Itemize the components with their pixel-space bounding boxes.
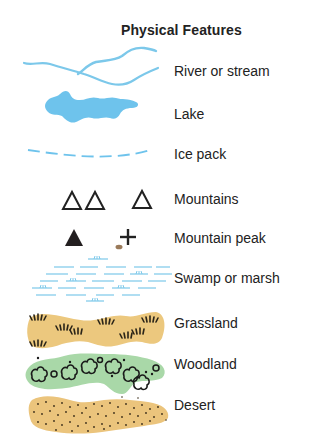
desert-icon xyxy=(26,392,172,436)
legend-label-mountains: Mountains xyxy=(174,191,239,207)
lake-icon xyxy=(40,88,145,128)
river-icon xyxy=(22,44,162,94)
grassland-icon xyxy=(24,308,169,352)
swamp-icon xyxy=(26,255,174,305)
legend-label-swamp: Swamp or marsh xyxy=(174,270,280,286)
mountain-peak-icon xyxy=(62,224,152,250)
legend-label-desert: Desert xyxy=(174,397,215,413)
cropped-header-text xyxy=(118,0,228,4)
legend-label-ice-pack: Ice pack xyxy=(174,146,226,162)
legend-title: Physical Features xyxy=(121,22,242,38)
legend-label-mountain-peak: Mountain peak xyxy=(174,230,266,246)
legend-label-lake: Lake xyxy=(174,106,204,122)
ice-pack-icon xyxy=(25,146,155,160)
mountains-icon xyxy=(60,188,160,212)
legend-label-grassland: Grassland xyxy=(174,315,238,331)
legend-label-river: River or stream xyxy=(174,63,270,79)
woodland-icon xyxy=(24,350,169,396)
legend-label-woodland: Woodland xyxy=(174,356,237,372)
